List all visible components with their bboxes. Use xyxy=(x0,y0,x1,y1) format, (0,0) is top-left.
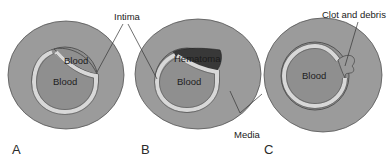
aortic-dissection-diagram: Blood Blood A Hematoma Blood B Blood C I… xyxy=(0,0,391,159)
true-lumen-label-a: Blood xyxy=(53,76,77,87)
hematoma-label-b: Hematoma xyxy=(174,53,221,64)
false-lumen-label-a: Blood xyxy=(64,55,88,66)
panel-c: Blood C xyxy=(264,18,382,157)
media-label: Media xyxy=(234,129,261,140)
true-lumen-label-c: Blood xyxy=(302,70,326,81)
intima-label: Intima xyxy=(114,11,141,22)
clot-label: Clot and debris xyxy=(322,9,386,20)
panel-label-b: B xyxy=(141,142,150,157)
panel-label-c: C xyxy=(264,142,273,157)
panel-label-a: A xyxy=(12,142,21,157)
true-lumen-label-b: Blood xyxy=(177,76,201,87)
panel-a: Blood Blood A xyxy=(8,21,124,157)
